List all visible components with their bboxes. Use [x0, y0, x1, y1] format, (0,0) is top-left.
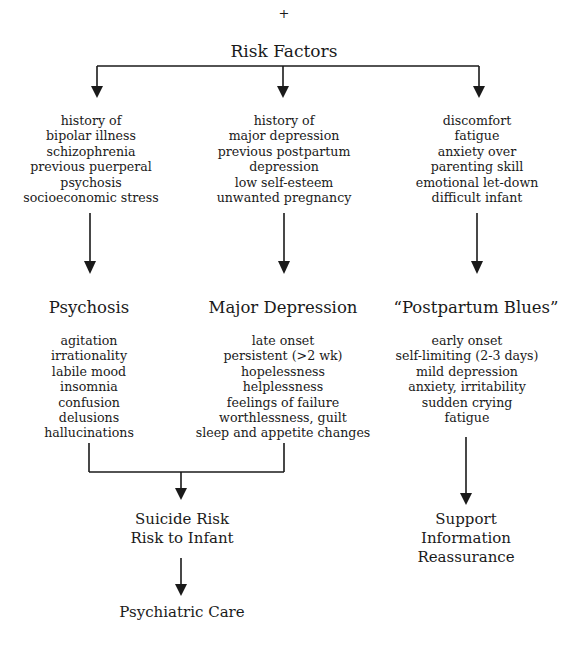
symptom-item: confusion [44, 395, 134, 410]
risk-factor-item: anxiety over [416, 144, 539, 159]
risk-factors-psychosis: history of bipolar illness schizophrenia… [23, 113, 158, 205]
risk-factor-item: socioeconomic stress [23, 190, 158, 205]
outcome-psychiatric-care: Psychiatric Care [119, 603, 244, 622]
arrow-down-icon [278, 261, 290, 274]
outcome-suicide-risk: Suicide Risk [130, 510, 233, 529]
risk-factor-item: discomfort [416, 113, 539, 128]
symptoms-psychosis: agitation irrationality labile mood inso… [44, 333, 134, 441]
outcome-blues-management: Support Information Reassurance [417, 510, 514, 567]
risk-factor-item: major depression [217, 128, 352, 143]
symptom-item: mild depression [396, 364, 539, 379]
risk-factor-item: history of [217, 113, 352, 128]
risk-factor-item: schizophrenia [23, 144, 158, 159]
outcome-support: Support [417, 510, 514, 529]
root-node-risk-factors: Risk Factors [231, 41, 338, 61]
risk-factor-item: fatigue [416, 128, 539, 143]
symptom-item: agitation [44, 333, 134, 348]
outcome-information: Information [417, 529, 514, 548]
risk-factors-depression: history of major depression previous pos… [217, 113, 352, 205]
symptom-item: early onset [396, 333, 539, 348]
outcome-reassurance: Reassurance [417, 548, 514, 567]
risk-factor-item: bipolar illness [23, 128, 158, 143]
symptom-item: hallucinations [44, 425, 134, 440]
arrow-down-icon [84, 261, 96, 274]
risk-factor-item: depression [217, 159, 352, 174]
arrow-down-icon [91, 86, 103, 98]
risk-factors-blues: discomfort fatigue anxiety over parentin… [416, 113, 539, 205]
symptoms-major-depression: late onset persistent (>2 wk) hopelessne… [196, 333, 371, 441]
arrow-down-icon [175, 488, 187, 500]
arrow-down-icon [277, 86, 289, 98]
risk-factor-item: history of [23, 113, 158, 128]
condition-major-depression: Major Depression [209, 298, 358, 317]
symptom-item: self-limiting (2-3 days) [396, 348, 539, 363]
symptom-item: anxiety, irritability [396, 379, 539, 394]
symptom-item: irrationality [44, 348, 134, 363]
risk-factor-item: previous puerperal [23, 159, 158, 174]
risk-factor-item: psychosis [23, 175, 158, 190]
arrow-down-icon [473, 86, 485, 98]
symptoms-postpartum-blues: early onset self-limiting (2-3 days) mil… [396, 333, 539, 425]
risk-factor-item: difficult infant [416, 190, 539, 205]
condition-postpartum-blues: “Postpartum Blues” [393, 298, 558, 317]
symptom-item: fatigue [396, 410, 539, 425]
risk-factor-item: parenting skill [416, 159, 539, 174]
condition-psychosis: Psychosis [49, 298, 129, 317]
arrow-down-icon [460, 493, 472, 505]
outcome-risk-to-infant: Risk to Infant [130, 529, 233, 548]
risk-factor-item: emotional let-down [416, 175, 539, 190]
risk-factor-item: unwanted pregnancy [217, 190, 352, 205]
arrow-down-icon [175, 584, 187, 596]
symptom-item: insomnia [44, 379, 134, 394]
symptom-item: worthlessness, guilt [196, 410, 371, 425]
symptom-item: sudden crying [396, 395, 539, 410]
risk-factor-item: low self-esteem [217, 175, 352, 190]
symptom-item: persistent (>2 wk) [196, 348, 371, 363]
symptom-item: late onset [196, 333, 371, 348]
risk-factor-item: previous postpartum [217, 144, 352, 159]
symptom-item: hopelessness [196, 364, 371, 379]
symptom-item: helplessness [196, 379, 371, 394]
symptom-item: delusions [44, 410, 134, 425]
plus-marker: + [279, 6, 290, 21]
symptom-item: labile mood [44, 364, 134, 379]
symptom-item: sleep and appetite changes [196, 425, 371, 440]
arrow-down-icon [471, 261, 483, 274]
symptom-item: feelings of failure [196, 395, 371, 410]
outcome-risks: Suicide Risk Risk to Infant [130, 510, 233, 548]
